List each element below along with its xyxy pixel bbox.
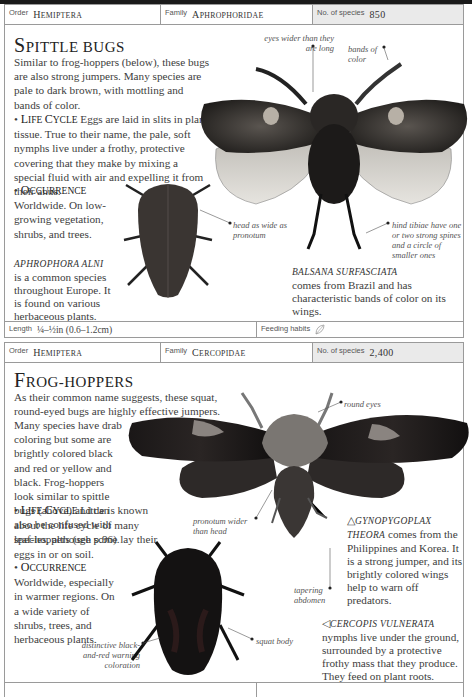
length-cell xyxy=(5,683,257,697)
gynopygoplax-theora-illustration xyxy=(122,388,472,538)
spittle-intro: Similar to frog-hoppers (below), these b… xyxy=(14,55,210,112)
family-cell: Family CERCOPIDAE xyxy=(161,343,313,362)
spittle-classification-bar: Order HEMIPTERA Family APHROPHORIDAE No.… xyxy=(4,4,464,25)
order-cell: Order HEMIPTERA xyxy=(5,5,161,24)
frog-footer-bar xyxy=(4,682,464,697)
length-value: ¼–½in (0.6–1.2cm) xyxy=(37,325,112,335)
spittle-footer-bar: Length ¼–½in (0.6–1.2cm) Feeding habits xyxy=(4,321,464,338)
family-label: Family xyxy=(165,346,187,355)
feeding-habits-cell xyxy=(257,683,463,697)
order-label: Order xyxy=(9,346,28,355)
order-label: Order xyxy=(9,8,28,17)
species-count-label: No. of species xyxy=(317,8,365,17)
order-cell: Order HEMIPTERA xyxy=(5,343,161,362)
frog-title: FROG-HOPPERS xyxy=(14,369,134,392)
order-value: HEMIPTERA xyxy=(33,347,82,358)
spittle-occurrence: • OCCURRENCEWorldwide. On low-growing ve… xyxy=(14,183,114,241)
cercopis-caption: ◁CERCOPIS VULNERATAnymphs live under the… xyxy=(322,617,462,683)
family-cell: Family APHROPHORIDAE xyxy=(161,5,313,24)
family-value: APHROPHORIDAE xyxy=(192,9,263,20)
occurrence-heading: OCCURRENCE xyxy=(21,184,87,196)
species-count-cell: No. of species 850 xyxy=(313,5,463,24)
feeding-habits-cell: Feeding habits xyxy=(257,322,463,337)
feeding-habits-label: Feeding habits xyxy=(261,324,310,333)
leaf-icon xyxy=(315,324,325,335)
family-label: Family xyxy=(165,8,187,17)
aphrophora-alni-illustration xyxy=(118,180,218,300)
balsana-surfasciata-illustration xyxy=(196,44,472,254)
occurrence-heading: OCCURRENCE xyxy=(21,561,87,573)
life-cycle-heading: LIFE CYCLE xyxy=(21,113,78,125)
life-cycle-heading: LIFE CYCLE xyxy=(21,504,78,516)
species-count-cell: No. of species 2,400 xyxy=(313,343,463,362)
balsana-caption: BALSANA SURFASCIATAcomes from Brazil and… xyxy=(292,265,452,318)
annotation-squat: squat body xyxy=(256,636,293,646)
annotation-abdomen: tapering abdomen xyxy=(294,585,332,605)
spittle-title: SPITTLE BUGS xyxy=(14,34,125,57)
species-count-value: 850 xyxy=(370,9,386,20)
length-cell: Length ¼–½in (0.6–1.2cm) xyxy=(5,322,257,337)
species-count-value: 2,400 xyxy=(370,347,394,358)
order-value: HEMIPTERA xyxy=(33,9,82,20)
cercopis-vulnerata-illustration xyxy=(128,540,248,680)
length-label: Length xyxy=(9,324,32,333)
species-count-label: No. of species xyxy=(317,346,365,355)
family-value: CERCOPIDAE xyxy=(192,347,245,358)
aphrophora-caption: APHROPHORA ALNIis a common species throu… xyxy=(14,257,114,323)
frog-classification-bar: Order HEMIPTERA Family CERCOPIDAE No. of… xyxy=(4,342,464,363)
frog-occurrence: • OCCURRENCEWorldwide, especially in war… xyxy=(14,560,118,646)
